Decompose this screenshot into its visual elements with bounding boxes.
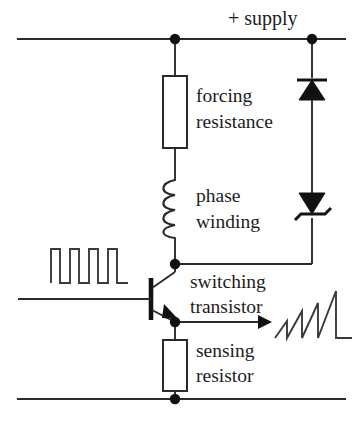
node-supply-right [307,34,317,44]
circuit-diagram: + supply forcing resistance [0,0,363,426]
circuit-svg-canvas: + supply forcing resistance [0,0,363,426]
forcing-resistance-label-group: forcing resistance [196,85,273,132]
freewheel-diode-symbol [297,80,327,100]
switching-transistor-label-line1: switching [190,271,266,292]
node-ground [170,394,180,404]
phase-winding-label-line2: winding [196,211,260,232]
node-collector [170,259,180,269]
forcing-resistance-symbol [163,76,187,148]
node-supply-left [170,34,180,44]
switching-transistor-label-group: switching transistor [190,271,266,317]
sensing-resistor-symbol [163,340,187,391]
switching-transistor-label-line2: transistor [190,296,263,317]
sense-current-waveform [275,291,352,338]
sense-output-arrow [175,315,272,329]
phase-winding-label-line1: phase [196,185,240,206]
phase-winding-symbol [163,180,175,238]
node-emitter [170,317,180,327]
zener-diode-symbol [295,193,331,220]
forcing-resistance-label-line1: forcing [196,85,253,106]
sensing-resistor-label-line1: sensing [196,340,255,361]
sensing-resistor-label-group: sensing resistor [196,340,255,386]
phase-winding-label-group: phase winding [196,185,260,232]
gate-drive-pulse-waveform [51,249,128,283]
sensing-resistor-label-line2: resistor [196,365,254,386]
forcing-resistance-label-line2: resistance [196,111,273,132]
supply-label: + supply [228,7,298,30]
